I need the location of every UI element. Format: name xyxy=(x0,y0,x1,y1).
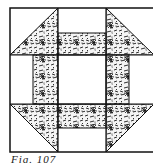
right-bar xyxy=(106,55,129,104)
quilt-block-diagram xyxy=(0,0,153,163)
top-middle-unit xyxy=(58,8,106,55)
bottom-bar xyxy=(58,104,106,128)
bottom-right-corner-triangle xyxy=(106,104,153,152)
figure-caption: Fig. 107 xyxy=(11,153,56,163)
top-right-corner-triangle xyxy=(106,8,153,55)
bottom-middle-unit xyxy=(58,104,106,152)
left-bar xyxy=(33,55,58,104)
right-middle-unit xyxy=(106,55,153,104)
center-square xyxy=(58,55,106,104)
top-left-corner-triangle xyxy=(10,8,58,55)
bottom-left-corner-triangle xyxy=(10,104,58,152)
top-bar xyxy=(58,33,106,55)
left-middle-unit xyxy=(10,55,58,104)
